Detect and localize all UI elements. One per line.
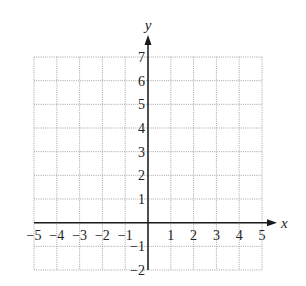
x-tick-label: −2 — [95, 228, 110, 243]
y-tick-label: 4 — [138, 121, 145, 136]
y-axis-arrow-icon — [145, 35, 152, 45]
y-tick-label: −2 — [130, 263, 145, 278]
x-axis-label: x — [280, 215, 288, 231]
x-tick-label: −5 — [27, 228, 42, 243]
tick-labels: −5−4−3−2−112345−2−11234567 — [27, 50, 266, 278]
y-tick-label: 1 — [138, 192, 145, 207]
x-tick-label: −4 — [49, 228, 64, 243]
x-tick-label: 1 — [167, 228, 174, 243]
x-tick-label: 5 — [259, 228, 266, 243]
y-tick-label: 7 — [138, 50, 145, 65]
x-axis-arrow-icon — [267, 219, 277, 226]
coordinate-plane: −5−4−3−2−112345−2−11234567 x y — [0, 0, 306, 286]
x-tick-label: 4 — [236, 228, 243, 243]
y-tick-label: 6 — [138, 74, 145, 89]
x-tick-label: −3 — [72, 228, 87, 243]
x-tick-label: 2 — [190, 228, 197, 243]
y-axis-label: y — [143, 17, 152, 33]
x-tick-label: 3 — [213, 228, 220, 243]
y-tick-label: 3 — [138, 145, 145, 160]
y-tick-label: −1 — [130, 239, 145, 254]
y-tick-label: 2 — [138, 168, 145, 183]
y-tick-label: 5 — [138, 97, 145, 112]
